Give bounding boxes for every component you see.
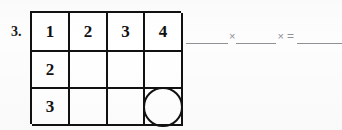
problem-number: 3. (11, 25, 22, 39)
grid-cell-r2c3[interactable] (108, 52, 145, 89)
equals-sign: = (285, 30, 297, 42)
worksheet-problem: 3. 1 2 3 4 2 3 (0, 0, 342, 130)
grid-cell-r1c2[interactable]: 2 (70, 13, 108, 52)
grid-cell-value: 2 (46, 61, 55, 78)
grid-cell-r3c3[interactable] (108, 89, 145, 126)
answer-blank-first[interactable] (186, 31, 228, 44)
multiply-operator-icon: × (228, 31, 236, 42)
grid-cell-r2c2[interactable] (70, 52, 108, 89)
multiplication-grid: 1 2 3 4 2 3 (30, 11, 181, 124)
grid-cell-r1c1[interactable]: 1 (32, 13, 70, 52)
grid-cell-value: 1 (46, 23, 55, 40)
grid-cell-value: 3 (121, 23, 130, 40)
grid-cell-r3c4[interactable] (145, 89, 183, 126)
grid-cell-r1c3[interactable]: 3 (108, 13, 145, 52)
circle-annotation-icon (143, 87, 183, 127)
grid-cell-r1c4[interactable]: 4 (145, 13, 183, 52)
answer-blank-second[interactable] (236, 31, 276, 44)
grid-cell-r3c2[interactable] (70, 89, 108, 126)
grid-cell-r2c1[interactable]: 2 (32, 52, 70, 89)
equation-answer-line: × × = (186, 24, 342, 44)
grid-cell-value: 2 (84, 23, 93, 40)
multiply-operator-icon: × (276, 31, 284, 42)
grid-cell-value: 4 (159, 23, 168, 40)
grid-cell-r2c4[interactable] (145, 52, 183, 89)
answer-blank-result[interactable] (297, 31, 342, 44)
grid-cell-r3c1[interactable]: 3 (32, 89, 70, 126)
grid-cell-value: 3 (46, 98, 55, 115)
